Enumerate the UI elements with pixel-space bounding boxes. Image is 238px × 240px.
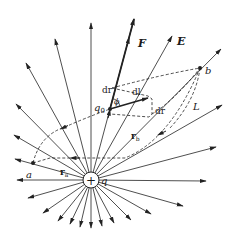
force-upper-arrow bbox=[127, 40, 129, 46]
field-line bbox=[16, 104, 85, 174]
field-diagram: + F E b a L q q0 dr dl ϕ dr rb ra bbox=[0, 0, 238, 240]
label-q: q bbox=[101, 175, 107, 186]
point-a bbox=[31, 161, 35, 165]
path-L-arrow bbox=[63, 126, 68, 129]
label-q0: q0 bbox=[94, 102, 105, 115]
field-line bbox=[58, 186, 86, 221]
label-ra: ra bbox=[60, 167, 69, 178]
path-L-upper bbox=[33, 109, 110, 163]
field-line bbox=[98, 184, 151, 214]
field-line bbox=[99, 182, 183, 206]
field-line bbox=[43, 185, 84, 214]
charge-sign: + bbox=[86, 174, 96, 188]
label-phi: ϕ bbox=[114, 97, 120, 106]
label-dl: dl bbox=[132, 87, 141, 97]
field-line bbox=[14, 135, 84, 176]
point-q0 bbox=[108, 107, 112, 111]
label-E: E bbox=[176, 35, 186, 48]
force-mid-arrow bbox=[108, 112, 110, 118]
force-vector-F bbox=[110, 19, 134, 109]
field-line bbox=[99, 180, 206, 181]
label-L: L bbox=[192, 101, 200, 112]
label-F: F bbox=[137, 37, 147, 50]
curve-L bbox=[170, 68, 200, 128]
field-line bbox=[95, 187, 114, 223]
label-dr-top: dr bbox=[102, 85, 113, 95]
field-line bbox=[99, 147, 216, 178]
label-a: a bbox=[26, 169, 32, 180]
field-lines bbox=[14, 19, 222, 228]
label-b: b bbox=[205, 65, 211, 76]
field-line bbox=[93, 188, 102, 226]
path-L-q0-to-b bbox=[112, 68, 200, 88]
field-line bbox=[97, 186, 131, 220]
field-line bbox=[95, 36, 172, 173]
field-line bbox=[28, 182, 83, 198]
label-dr-side: dr bbox=[155, 106, 166, 116]
field-line bbox=[55, 39, 89, 172]
point-b bbox=[198, 66, 202, 70]
